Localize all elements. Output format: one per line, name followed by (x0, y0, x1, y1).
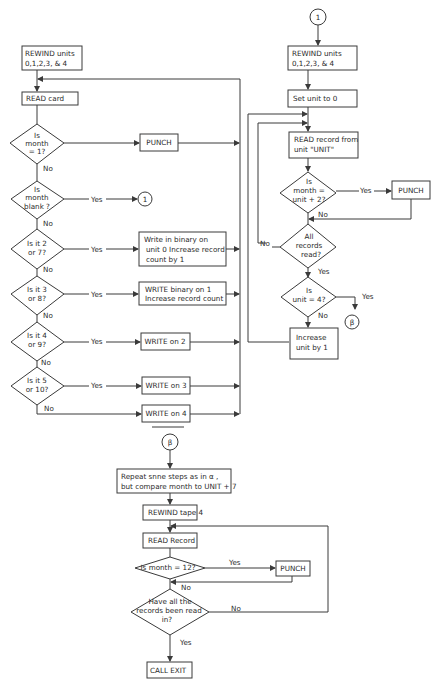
flowchart: REWIND units 0,1,2,3, & 4 READ card Is m… (0, 0, 441, 687)
process-text: but compare month to UNIT + 7 (121, 482, 236, 491)
decision-text: unit = 4? (293, 295, 326, 304)
connector-label: 1 (316, 13, 321, 22)
read-card-label: READ card (26, 94, 64, 103)
decision-text: Is (306, 286, 312, 295)
yes-label: Yes (361, 292, 374, 301)
decision-text: or 7? (28, 248, 46, 257)
rewind-units-label: REWIND units (25, 49, 75, 58)
decision-text: Is it 4 (27, 331, 47, 340)
punch-label: PUNCH (146, 138, 171, 147)
decision-text: or 10? (26, 385, 49, 394)
decision-text: Is it 3 (27, 285, 47, 294)
decision-text: records been read (136, 606, 201, 615)
punch-label: PUNCH (280, 564, 305, 573)
process-text: Write in binary on (144, 235, 208, 244)
process-text: READ record from (294, 135, 358, 144)
process-text: WRITE on 2 (144, 337, 185, 346)
process-text: Repeat snne steps as in α , (121, 472, 218, 481)
no-label: No (260, 239, 270, 248)
no-label: No (41, 358, 51, 367)
right-flow: 1 REWIND units 0,1,2,3, & 4 Set unit to … (248, 9, 430, 359)
process-text: CALL EXIT (150, 666, 187, 675)
decision-text: month = (293, 186, 325, 195)
decision-text: Is it 5 (27, 376, 47, 385)
no-label: No (43, 219, 53, 228)
decision-text: Have all the (148, 597, 192, 606)
no-label: No (231, 604, 241, 613)
process-text: READ Record (148, 536, 195, 545)
process-text: 0,1,2,3, & 4 (292, 59, 335, 68)
decision-text: unit + 2? (293, 195, 326, 204)
process-text: unit 0 Increase record (146, 245, 225, 254)
no-label: No (43, 311, 53, 320)
connector-label: 1 (143, 195, 148, 204)
no-label: No (44, 404, 54, 413)
decision-text: in? (162, 615, 173, 624)
yes-label: Yes (359, 186, 372, 195)
punch-label: PUNCH (398, 186, 423, 195)
no-label: No (43, 265, 53, 274)
decision-text: Is month = 12? (140, 563, 195, 572)
yes-label: Yes (90, 381, 103, 390)
process-text: Increase (296, 333, 327, 342)
yes-label: Yes (317, 267, 330, 276)
connector-label: β (168, 438, 173, 447)
process-text: Increase record count (145, 294, 223, 303)
left-flow: REWIND units 0,1,2,3, & 4 READ card Is m… (10, 46, 240, 422)
decision-text: All (305, 232, 314, 241)
yes-label: Yes (90, 245, 103, 254)
yes-label: Yes (90, 290, 103, 299)
no-label: No (181, 583, 191, 592)
decision-text: read? (301, 250, 321, 259)
yes-label: Yes (179, 638, 192, 647)
yes-label: Yes (90, 337, 103, 346)
process-text: count by 1 (146, 255, 184, 264)
process-text: WRITE on 3 (145, 381, 186, 390)
decision-text: or 8? (28, 294, 46, 303)
no-label: No (318, 210, 328, 219)
process-text: Set unit to 0 (293, 94, 338, 103)
no-label: No (43, 164, 53, 173)
yes-label: Yes (228, 558, 241, 567)
process-text: REWIND units (292, 49, 342, 58)
decision-text: = 1? (29, 147, 46, 156)
process-text: WRITE binary on 1 (145, 285, 211, 294)
bottom-flow: β Repeat snne steps as in α , but compar… (117, 427, 328, 678)
process-text: unit "UNIT" (294, 145, 334, 154)
decision-text: or 9? (28, 340, 46, 349)
rewind-units-list: 0,1,2,3, & 4 (25, 59, 68, 68)
process-text: REWIND tape 4 (148, 508, 203, 517)
process-text: unit by 1 (296, 343, 328, 352)
no-label: No (318, 311, 328, 320)
connector-label: β (350, 318, 355, 327)
decision-text: Is it 2 (27, 239, 47, 248)
decision-text: records (296, 241, 323, 250)
decision-text: Is (306, 177, 312, 186)
process-text: WRITE on 4 (145, 409, 187, 418)
decision-text: blank ? (24, 202, 50, 211)
decision-text: month (25, 193, 48, 202)
yes-label: Yes (90, 195, 103, 204)
